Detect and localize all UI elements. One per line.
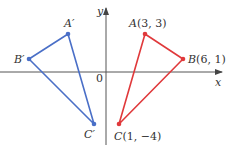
triangle-original: [117, 32, 186, 127]
vertex-c: [117, 122, 122, 127]
vertex-a-prime: [66, 32, 71, 37]
x-axis-label: x: [215, 76, 222, 89]
origin-label: 0: [96, 72, 103, 85]
label-c-prime: C′: [84, 128, 95, 141]
vertex-a: [143, 32, 148, 37]
vertex-c-prime: [92, 122, 97, 127]
vertex-b: [181, 57, 186, 62]
label-c: C(1, −4): [114, 130, 161, 143]
y-axis-label: y: [96, 5, 104, 18]
vertex-b-prime: [27, 57, 32, 62]
coordinate-diagram: y x 0 A′ B′ C′ A(3, 3) B(6, 1) C(1, −4): [0, 0, 234, 149]
triangle-reflected: [27, 32, 97, 127]
label-a-prime: A′: [63, 17, 75, 30]
label-b: B(6, 1): [187, 53, 226, 66]
label-b-prime: B′: [13, 53, 25, 66]
label-a: A(3, 3): [128, 17, 167, 30]
